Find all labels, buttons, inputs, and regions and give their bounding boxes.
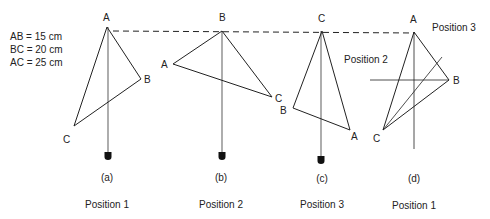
vertex-label-d-B: B <box>453 75 460 86</box>
panel-b: B A C (b) Position 2 <box>161 12 282 210</box>
caption-c: (c) <box>316 173 328 184</box>
dashed-reference-line <box>113 31 415 33</box>
position-label-d: Position 1 <box>392 200 436 211</box>
vertex-label-a-A: A <box>103 12 110 23</box>
caption-a: (a) <box>101 172 113 183</box>
plumb-weight-icon <box>105 152 112 160</box>
line-label-position-3: Position 3 <box>432 22 476 33</box>
vertex-label-c-C: C <box>318 13 325 24</box>
plumb-weight-icon <box>219 152 226 160</box>
panel-c: C B A (c) Position 3 <box>280 13 358 210</box>
vertex-label-b-C: C <box>275 93 282 104</box>
caption-d: (d) <box>408 173 420 184</box>
position-label-a: Position 1 <box>85 199 129 210</box>
triangle-d <box>383 32 449 130</box>
panel-a: A B C (a) Position 1 <box>63 12 151 210</box>
vertex-label-b-A: A <box>161 59 168 70</box>
diagonal-line-position-3 <box>383 57 442 130</box>
position-label-b: Position 2 <box>199 199 243 210</box>
vertex-label-b-B: B <box>219 12 226 23</box>
plumb-weight-icon <box>318 156 325 164</box>
vertex-label-d-A: A <box>410 14 417 25</box>
vertex-label-a-B: B <box>144 74 151 85</box>
caption-b: (b) <box>215 172 227 183</box>
line-label-position-2: Position 2 <box>344 54 388 65</box>
panel-d: A B C Position 3 Position 2 (d) Position… <box>344 14 476 211</box>
vertex-label-d-C: C <box>373 133 380 144</box>
center-of-gravity-diagram: A B C (a) Position 1 B A C (b) Position … <box>0 0 490 219</box>
vertex-label-a-C: C <box>63 134 70 145</box>
vertex-label-c-A: A <box>351 131 358 142</box>
position-label-c: Position 3 <box>300 199 344 210</box>
vertex-label-c-B: B <box>280 105 287 116</box>
